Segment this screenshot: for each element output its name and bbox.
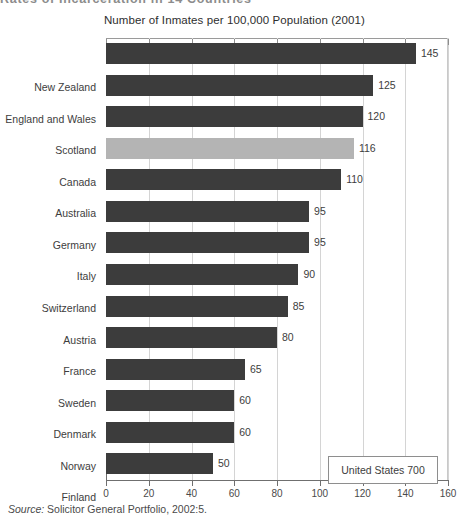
bar	[106, 327, 277, 348]
bar	[106, 169, 341, 190]
x-axis-tick-label: 120	[354, 488, 371, 499]
category-label: Germany	[0, 239, 96, 251]
x-axis-tick-label: 140	[397, 488, 414, 499]
gridline	[149, 38, 150, 480]
category-label: England and Wales	[0, 113, 96, 125]
page-heading: Rates of Incarceration in 14 Countries	[0, 0, 300, 4]
gridline	[363, 38, 364, 480]
x-axis-tick	[277, 480, 278, 486]
bar-value-label: 60	[239, 426, 251, 438]
bar-value-label: 60	[239, 394, 251, 406]
x-axis-tick	[448, 480, 449, 486]
x-axis-tick	[106, 480, 107, 486]
category-label: Finland	[0, 491, 96, 503]
bar	[106, 106, 363, 127]
x-axis-tick	[234, 480, 235, 486]
bar-value-label: 95	[314, 236, 326, 248]
bar	[106, 232, 309, 253]
bar	[106, 359, 245, 380]
x-axis-tick-label: 100	[311, 488, 328, 499]
x-axis-tick-label: 80	[271, 488, 282, 499]
bar	[106, 75, 373, 96]
bar-value-label: 145	[421, 47, 439, 59]
callout-label: United States 700	[341, 464, 424, 476]
category-label: France	[0, 365, 96, 377]
category-label: Sweden	[0, 397, 96, 409]
bar-chart-figure: New ZealandEngland and WalesScotlandCana…	[0, 36, 469, 498]
category-label: Canada	[0, 176, 96, 188]
bar-value-label: 50	[218, 457, 230, 469]
gridline	[192, 38, 193, 480]
bar	[106, 43, 416, 64]
x-axis-tick	[192, 480, 193, 486]
bar-value-label: 110	[346, 173, 363, 185]
bar	[106, 201, 309, 222]
gridline	[277, 38, 278, 480]
x-axis-tick	[320, 480, 321, 486]
x-axis-tick-label: 20	[143, 488, 154, 499]
gridline	[448, 38, 449, 480]
category-label: Italy	[0, 270, 96, 282]
category-label: Norway	[0, 460, 96, 472]
x-axis-tick-label: 0	[103, 488, 109, 499]
plot-area: 0204060801001201401601451251201161109595…	[106, 38, 448, 480]
category-label: Austria	[0, 334, 96, 346]
category-label: Switzerland	[0, 302, 96, 314]
category-label: Scotland	[0, 144, 96, 156]
x-axis-tick	[149, 480, 150, 486]
category-label: Australia	[0, 207, 96, 219]
bar-value-label: 85	[293, 300, 305, 312]
gridline	[320, 38, 321, 480]
gridline	[405, 38, 406, 480]
bar	[106, 422, 234, 443]
source-label: Source:	[8, 503, 44, 515]
x-axis-tick-label: 160	[440, 488, 457, 499]
bar-value-label: 80	[282, 331, 294, 343]
bar	[106, 138, 354, 159]
bar-value-label: 90	[303, 268, 315, 280]
x-axis-tick-label: 40	[186, 488, 197, 499]
category-label: Denmark	[0, 428, 96, 440]
bar	[106, 264, 298, 285]
bar	[106, 390, 234, 411]
bar-value-label: 65	[250, 363, 262, 375]
x-axis-tick-top	[448, 39, 449, 45]
bar	[106, 296, 288, 317]
category-axis: New ZealandEngland and WalesScotlandCana…	[0, 72, 100, 514]
category-label: New Zealand	[0, 81, 96, 93]
bar-value-label: 116	[359, 142, 376, 154]
bar-value-label: 125	[378, 79, 396, 91]
gridline	[234, 38, 235, 480]
source-text: Solicitor General Portfolio, 2002:5.	[47, 503, 207, 515]
source-note: Source: Solicitor General Portfolio, 200…	[8, 503, 207, 515]
x-axis-tick-label: 60	[229, 488, 240, 499]
bar-value-label: 120	[368, 110, 386, 122]
united-states-callout: United States 700	[328, 456, 438, 484]
bar-value-label: 95	[314, 205, 326, 217]
chart-title: Number of Inmates per 100,000 Population…	[0, 14, 469, 26]
bar	[106, 453, 213, 474]
